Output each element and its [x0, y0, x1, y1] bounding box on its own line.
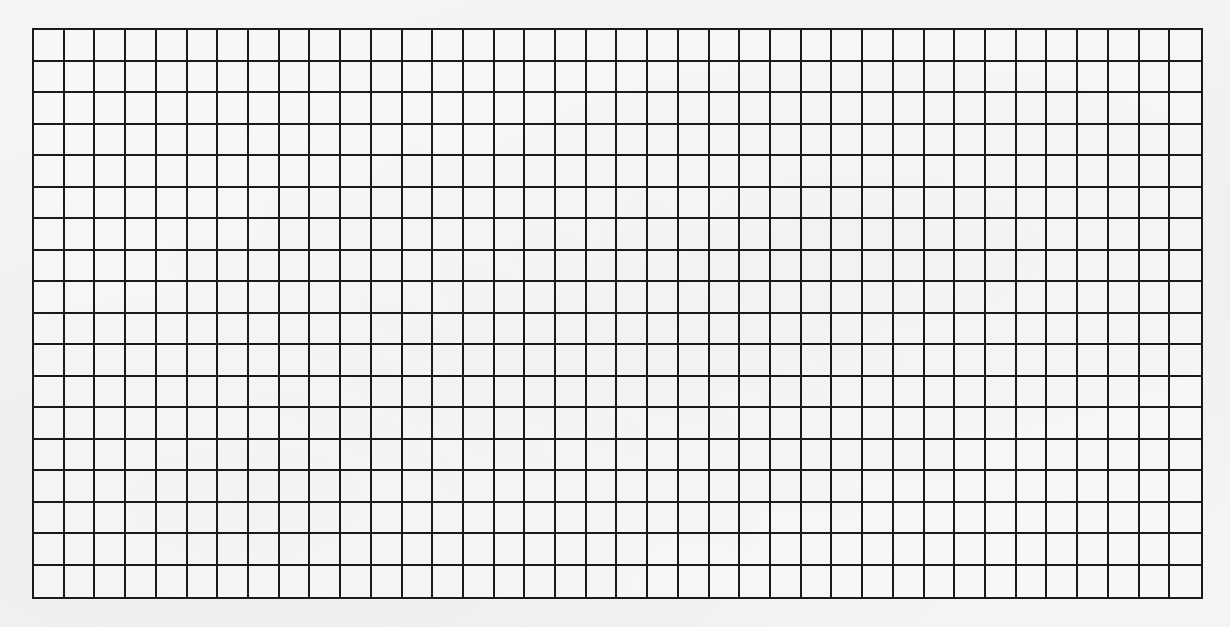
grid-cell: [1109, 440, 1140, 472]
grid-cell: [740, 219, 771, 251]
grid-cell: [1017, 125, 1048, 157]
grid-cell: [310, 408, 341, 440]
grid-cell: [925, 377, 956, 409]
grid-cell: [1109, 251, 1140, 283]
grid-cell: [495, 471, 526, 503]
grid-cell: [1047, 30, 1078, 62]
grid-cell: [188, 219, 219, 251]
grid-cell: [65, 251, 96, 283]
grid-cell: [280, 219, 311, 251]
grid-cell: [1017, 345, 1048, 377]
grid-cell: [372, 93, 403, 125]
grid-cell: [925, 534, 956, 566]
grid-cell: [1078, 314, 1109, 346]
grid-cell: [771, 345, 802, 377]
grid-cell: [372, 471, 403, 503]
grid-cell: [587, 30, 618, 62]
grid-cell: [986, 188, 1017, 220]
grid-cell: [157, 471, 188, 503]
grid-cell: [802, 282, 833, 314]
grid-cell: [65, 125, 96, 157]
grid-cell: [587, 377, 618, 409]
grid-cell: [341, 125, 372, 157]
grid-cell: [802, 219, 833, 251]
grid-cell: [771, 62, 802, 94]
grid-cell: [495, 62, 526, 94]
grid-cell: [1047, 62, 1078, 94]
grid-cell: [310, 377, 341, 409]
grid-cell: [802, 156, 833, 188]
grid-cell: [464, 566, 495, 598]
grid-cell: [740, 125, 771, 157]
grid-cell: [310, 30, 341, 62]
grid-cell: [925, 408, 956, 440]
grid-cell: [740, 408, 771, 440]
grid-cell: [679, 408, 710, 440]
grid-cell: [280, 377, 311, 409]
grid-cell: [925, 93, 956, 125]
grid-cell: [648, 503, 679, 535]
grid-cell: [372, 566, 403, 598]
grid-cell: [403, 156, 434, 188]
grid-cell: [1140, 282, 1171, 314]
grid-cell: [310, 440, 341, 472]
grid-cell: [925, 282, 956, 314]
grid-cell: [372, 440, 403, 472]
grid-cell: [617, 440, 648, 472]
grid-cell: [894, 503, 925, 535]
grid-cell: [525, 566, 556, 598]
grid-cell: [372, 188, 403, 220]
grid-cell: [126, 471, 157, 503]
grid-cell: [925, 30, 956, 62]
grid-cell: [648, 125, 679, 157]
grid-cell: [710, 188, 741, 220]
grid-cell: [740, 345, 771, 377]
grid-cell: [832, 377, 863, 409]
grid-cell: [433, 471, 464, 503]
grid-cell: [157, 503, 188, 535]
grid-cell: [372, 30, 403, 62]
grid-cell: [894, 188, 925, 220]
grid-cell: [188, 408, 219, 440]
grid-cell: [894, 62, 925, 94]
grid-cell: [1140, 471, 1171, 503]
grid-cell: [1047, 440, 1078, 472]
grid-cell: [802, 345, 833, 377]
grid-cell: [249, 408, 280, 440]
grid-cell: [832, 345, 863, 377]
grid-cell: [403, 30, 434, 62]
grid-cell: [249, 314, 280, 346]
grid-cell: [955, 566, 986, 598]
grid-cell: [126, 93, 157, 125]
grid-cell: [249, 345, 280, 377]
grid-cell: [1170, 314, 1201, 346]
grid-cell: [740, 314, 771, 346]
grid-cell: [648, 345, 679, 377]
grid-cell: [679, 188, 710, 220]
grid-cell: [955, 251, 986, 283]
grid-cell: [925, 345, 956, 377]
grid-cell: [525, 156, 556, 188]
grid-cell: [95, 282, 126, 314]
grid-cell: [310, 282, 341, 314]
grid-cell: [587, 93, 618, 125]
grid-cell: [894, 345, 925, 377]
grid-cell: [925, 62, 956, 94]
grid-cell: [372, 503, 403, 535]
grid-cell: [464, 408, 495, 440]
grid-cell: [771, 219, 802, 251]
grid-cell: [1017, 503, 1048, 535]
grid-cell: [218, 30, 249, 62]
grid-cell: [433, 314, 464, 346]
grid-cell: [955, 93, 986, 125]
grid-cell: [464, 440, 495, 472]
grid-cell: [1078, 156, 1109, 188]
grid-cell: [617, 314, 648, 346]
grid-cell: [495, 125, 526, 157]
grid-cell: [218, 566, 249, 598]
grid-cell: [1170, 93, 1201, 125]
grid-cell: [1109, 125, 1140, 157]
grid-cell: [1109, 314, 1140, 346]
grid-cell: [955, 30, 986, 62]
grid-cell: [617, 345, 648, 377]
